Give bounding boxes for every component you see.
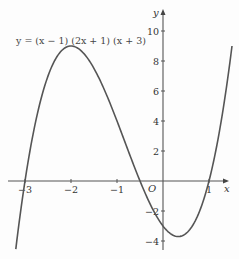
x-tick-label: −1 xyxy=(110,184,124,195)
y-axis-arrow-icon xyxy=(161,9,166,15)
ticks: −3−2−11−4−2246810 xyxy=(18,26,212,247)
x-axis-label: x xyxy=(224,183,230,194)
origin-label: O xyxy=(148,183,156,194)
y-tick-label: −4 xyxy=(145,236,159,247)
y-tick-label: 6 xyxy=(153,86,159,97)
chart-container: −3−2−11−4−2246810 y = (x − 1) (2x + 1) (… xyxy=(0,0,239,259)
y-tick-label: 4 xyxy=(153,116,159,127)
cubic-curve xyxy=(16,46,232,249)
x-tick-label: −2 xyxy=(64,184,78,195)
y-tick-label: 8 xyxy=(153,56,159,67)
y-tick-label: 10 xyxy=(147,26,159,37)
y-tick-label: 2 xyxy=(153,146,159,157)
equation-annotation: y = (x − 1) (2x + 1) (x + 3) xyxy=(15,35,146,46)
y-axis-label: y xyxy=(152,7,159,18)
cubic-function-graph: −3−2−11−4−2246810 y = (x − 1) (2x + 1) (… xyxy=(0,0,239,259)
